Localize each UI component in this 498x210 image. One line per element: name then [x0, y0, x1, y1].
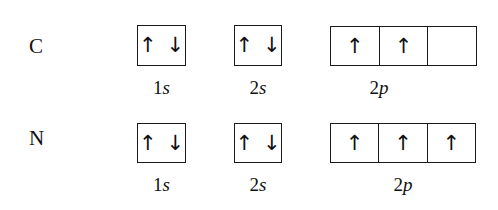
spin-up-arrow-icon: ↑ [346, 133, 364, 154]
spin-up-arrow-icon: ↑ [235, 133, 253, 154]
orbital-letter: p [379, 77, 389, 98]
orbital-2p-cell-2: ↑ [379, 27, 428, 65]
element-symbol-carbon: C [29, 36, 43, 57]
orbital-2p-label: 2p [354, 175, 452, 194]
orbital-2p-cell-3: ↑ [427, 124, 475, 162]
spin-down-arrow-icon: ↓ [167, 133, 185, 154]
spin-up-arrow-icon: ↑ [346, 36, 364, 57]
orbital-number: 2 [250, 174, 260, 195]
orbital-2p-cell-1: ↑ [331, 27, 379, 65]
orbital-1s-label: 1s [137, 175, 186, 194]
element-symbol-nitrogen: N [29, 128, 44, 149]
orbital-letter: p [403, 174, 413, 195]
orbital-2s-label: 2s [234, 78, 282, 97]
orbital-2p-cell-2: ↑ [378, 124, 426, 162]
orbital-2p-label: 2p [330, 78, 428, 97]
orbital-1s-box: ↑ ↓ [137, 25, 186, 66]
orbital-1s-cell: ↑ ↓ [138, 26, 185, 65]
spin-up-arrow-icon: ↑ [395, 36, 413, 57]
orbital-letter: s [163, 174, 170, 195]
spin-up-arrow-icon: ↑ [394, 133, 412, 154]
orbital-1s-label: 1s [137, 78, 186, 97]
spin-up-arrow-icon: ↑ [235, 35, 253, 56]
orbital-2s-label: 2s [234, 175, 282, 194]
orbital-1s-box: ↑ ↓ [137, 123, 186, 163]
orbital-letter: s [163, 77, 170, 98]
spin-down-arrow-icon: ↓ [167, 35, 185, 56]
orbital-1s-cell: ↑ ↓ [138, 124, 185, 162]
spin-up-arrow-icon: ↑ [139, 35, 157, 56]
orbital-2s-box: ↑ ↓ [234, 25, 282, 66]
orbital-2p-box: ↑ ↑ ↑ [330, 123, 476, 163]
spin-up-arrow-icon: ↑ [139, 133, 157, 154]
spin-down-arrow-icon: ↓ [263, 133, 281, 154]
orbital-2s-box: ↑ ↓ [234, 123, 282, 163]
orbital-letter: s [259, 77, 266, 98]
orbital-number: 2 [250, 77, 260, 98]
orbital-number: 1 [153, 174, 163, 195]
nitrogen-row: N ↑ ↓ 1s ↑ ↓ 2s ↑ ↑ ↑ 2p [0, 100, 498, 200]
orbital-letter: s [259, 174, 266, 195]
spin-up-arrow-icon: ↑ [443, 133, 461, 154]
carbon-row: C ↑ ↓ 1s ↑ ↓ 2s ↑ ↑ 2p [0, 0, 498, 100]
orbital-2s-cell: ↑ ↓ [235, 26, 281, 65]
orbital-2p-cell-1: ↑ [331, 124, 378, 162]
orbital-number: 2 [394, 174, 404, 195]
orbital-2s-cell: ↑ ↓ [235, 124, 281, 162]
spin-down-arrow-icon: ↓ [263, 35, 281, 56]
orbital-number: 1 [153, 77, 163, 98]
orbital-2p-box: ↑ ↑ [330, 26, 477, 66]
orbital-2p-cell-3 [427, 27, 476, 65]
orbital-number: 2 [370, 77, 380, 98]
